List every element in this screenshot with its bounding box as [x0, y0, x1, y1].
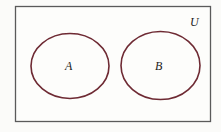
universe-rectangle — [16, 7, 211, 122]
set-a-label: A — [64, 59, 73, 73]
venn-diagram: U A B — [0, 0, 221, 132]
universe-label: U — [190, 15, 200, 29]
set-b-label: B — [155, 59, 163, 73]
